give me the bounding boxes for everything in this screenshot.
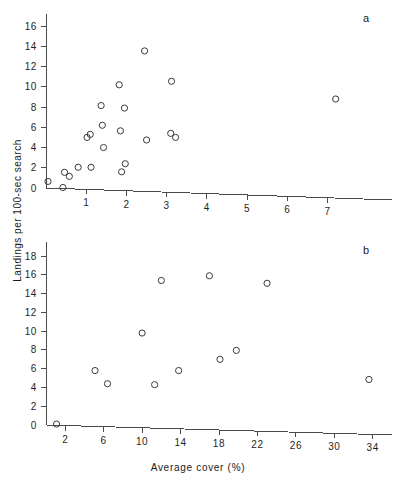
x-tick-label: 2 xyxy=(62,434,68,445)
data-point-marker xyxy=(233,347,239,353)
y-axis-title: Landings per 100-sec search xyxy=(12,116,23,306)
origin-label: 0 xyxy=(31,420,37,431)
data-point-marker xyxy=(122,161,128,167)
x-tick-label: 6 xyxy=(101,435,107,446)
y-tick-label: 8 xyxy=(31,344,37,355)
x-tick-label: 30 xyxy=(328,441,340,452)
data-point-marker xyxy=(333,96,339,102)
y-tick-label: 4 xyxy=(31,142,37,153)
data-point-marker xyxy=(141,48,147,54)
data-point-marker xyxy=(75,164,81,170)
x-axis-title: Average cover (%) xyxy=(0,462,396,473)
data-point-marker xyxy=(264,280,270,286)
y-tick-label: 8 xyxy=(31,102,37,113)
x-tick-label: 3 xyxy=(164,200,170,211)
y-tick-label: 16 xyxy=(25,269,37,280)
y-tick-label: 16 xyxy=(25,21,37,32)
data-point-marker xyxy=(119,169,125,175)
data-point-marker xyxy=(92,367,98,373)
panel-a-label: a xyxy=(363,12,369,24)
origin-label: 0 xyxy=(31,183,37,194)
y-tick-label: 14 xyxy=(25,41,37,52)
y-tick-label: 6 xyxy=(31,363,37,374)
panel-b-plot: 2610141822263034246810121416180 xyxy=(0,230,396,480)
y-tick-label: 4 xyxy=(31,382,37,393)
data-point-marker xyxy=(217,356,223,362)
data-point-marker xyxy=(206,273,212,279)
data-point-marker xyxy=(100,144,106,150)
data-point-marker xyxy=(366,376,372,382)
x-tick-label: 34 xyxy=(367,442,379,453)
x-tick-label: 7 xyxy=(325,206,331,217)
x-tick-label: 14 xyxy=(174,437,186,448)
panel-b-label: b xyxy=(363,244,369,256)
data-point-marker xyxy=(143,137,149,143)
x-tick-label: 22 xyxy=(251,439,263,450)
scatter-figure: 12345672468101214160 a 26101418222630342… xyxy=(0,0,396,480)
data-point-marker xyxy=(121,105,127,111)
y-tick-label: 18 xyxy=(25,251,37,262)
data-point-marker xyxy=(98,102,104,108)
panel-b: 2610141822263034246810121416180 xyxy=(0,230,396,480)
x-tick-label: 1 xyxy=(83,197,89,208)
x-tick-label: 6 xyxy=(284,204,290,215)
data-point-marker xyxy=(152,382,158,388)
y-tick-label: 12 xyxy=(25,61,37,72)
x-tick-label: 5 xyxy=(244,203,250,214)
data-point-marker xyxy=(116,82,122,88)
x-tick-label: 2 xyxy=(123,199,129,210)
data-point-marker xyxy=(66,173,72,179)
x-tick-label: 4 xyxy=(204,202,210,213)
y-tick-label: 2 xyxy=(31,401,37,412)
data-point-marker xyxy=(60,184,66,190)
data-point-marker xyxy=(104,381,110,387)
data-point-marker xyxy=(53,421,59,427)
y-tick-label: 12 xyxy=(25,307,37,318)
x-tick-label: 26 xyxy=(290,440,302,451)
data-point-marker xyxy=(139,330,145,336)
data-point-marker xyxy=(99,122,105,128)
y-tick-label: 14 xyxy=(25,288,37,299)
data-point-marker xyxy=(117,128,123,134)
data-point-marker xyxy=(88,164,94,170)
data-point-marker xyxy=(168,78,174,84)
panel-a: 12345672468101214160 a xyxy=(0,0,396,230)
y-tick-label: 2 xyxy=(31,162,37,173)
data-point-marker xyxy=(172,134,178,140)
y-tick-label: 10 xyxy=(25,81,37,92)
x-tick-label: 18 xyxy=(213,438,225,449)
panel-a-plot: 12345672468101214160 xyxy=(0,0,396,230)
data-point-marker xyxy=(176,367,182,373)
y-tick-label: 10 xyxy=(25,326,37,337)
x-tick-label: 10 xyxy=(136,436,148,447)
data-point-marker xyxy=(158,277,164,283)
y-tick-label: 6 xyxy=(31,122,37,133)
